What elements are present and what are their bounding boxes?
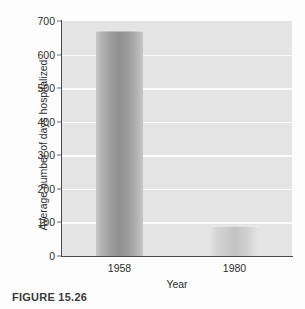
x-axis-tick-labels: 19581980 [62,262,292,276]
y-axis-tick-label: 200 [28,183,55,195]
x-axis-line [61,256,293,257]
figure-container: Average number of days hospitalized 0100… [0,0,305,309]
figure-caption: FIGURE 15.26 [12,291,87,303]
y-axis-tick-label: 400 [28,116,55,128]
y-axis-tick-labels: 0100200300400500600700 [28,14,55,262]
plot-area [62,21,292,256]
bar-1958 [96,31,143,256]
y-axis-tick-label: 700 [28,15,55,27]
y-axis-tick-label: 100 [28,216,55,228]
x-axis-title: Year [62,278,292,290]
y-axis-tick-label: 500 [28,82,55,94]
x-axis-tick-label: 1980 [205,262,265,274]
x-axis-tick-label: 1958 [90,262,150,274]
y-axis-tick-label: 0 [28,250,55,262]
bar-1980 [211,226,258,256]
y-axis-tick-label: 300 [28,149,55,161]
y-axis-tick-label: 600 [28,49,55,61]
